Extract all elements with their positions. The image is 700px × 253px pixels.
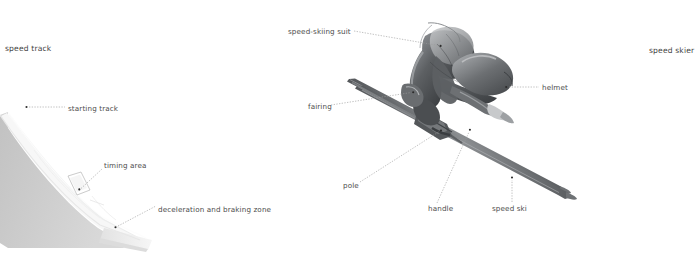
callout-label-speed-skiing-suit: speed-skiing suit	[288, 27, 351, 36]
callout-label-handle: handle	[428, 204, 453, 213]
callout-label-speed-ski: speed ski	[492, 204, 527, 213]
callout-dot-fairing	[412, 91, 414, 93]
callout-dot-handle	[469, 129, 471, 131]
callout-dot-helmet	[505, 86, 507, 88]
callout-label-fairing: fairing	[308, 102, 332, 111]
diagram-canvas: speed track speed skier starting track t…	[0, 0, 700, 253]
speed-track-illustration	[0, 112, 152, 252]
callout-dot-starting-track	[25, 106, 27, 108]
diagram-artwork	[0, 0, 700, 253]
callout-dot-timing-area	[78, 188, 80, 190]
callout-label-timing-area: timing area	[104, 161, 147, 170]
callout-label-helmet: helmet	[542, 83, 568, 92]
speed-skier-illustration	[347, 23, 577, 200]
section-title-speed-skier: speed skier	[649, 46, 694, 55]
callout-label-deceleration-and-braking-zone: deceleration and braking zone	[158, 205, 271, 214]
callout-label-pole: pole	[343, 181, 359, 190]
callout-dot-speed-ski	[511, 176, 513, 178]
callout-label-starting-track: starting track	[68, 104, 118, 113]
callout-dot-pole	[440, 130, 442, 132]
callout-dot-suit	[440, 45, 442, 47]
callout-dot-deceleration	[114, 226, 116, 228]
section-title-speed-track: speed track	[5, 44, 51, 53]
